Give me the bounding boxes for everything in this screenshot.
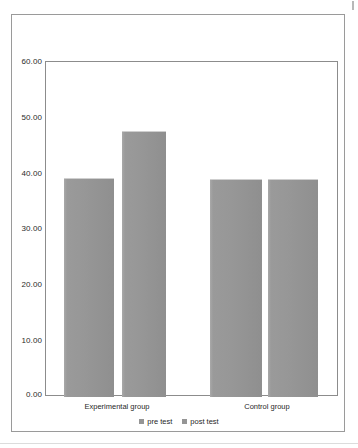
chart-page: 60.00 50.00 40.00 30.00 20.00 10.00 0.00… xyxy=(0,0,358,448)
legend-label-post: post test xyxy=(190,417,218,426)
chart-legend: pre test post test xyxy=(0,417,358,426)
bar-experimental-pre[interactable] xyxy=(64,178,114,397)
bar-control-pre[interactable] xyxy=(210,179,262,397)
legend-swatch-icon-pre xyxy=(139,419,144,424)
bar-control-post[interactable] xyxy=(268,179,318,397)
legend-item-post-test[interactable]: post test xyxy=(182,417,218,426)
category-label-control: Control group xyxy=(212,402,322,412)
legend-label-pre: pre test xyxy=(147,417,172,426)
bars-layer xyxy=(0,0,358,397)
legend-item-pre-test[interactable]: pre test xyxy=(139,417,172,426)
legend-swatch-icon-post xyxy=(182,419,187,424)
bar-experimental-post[interactable] xyxy=(122,131,166,397)
scan-bottom-line xyxy=(0,443,358,444)
category-label-experimental: Experimental group xyxy=(62,402,172,412)
